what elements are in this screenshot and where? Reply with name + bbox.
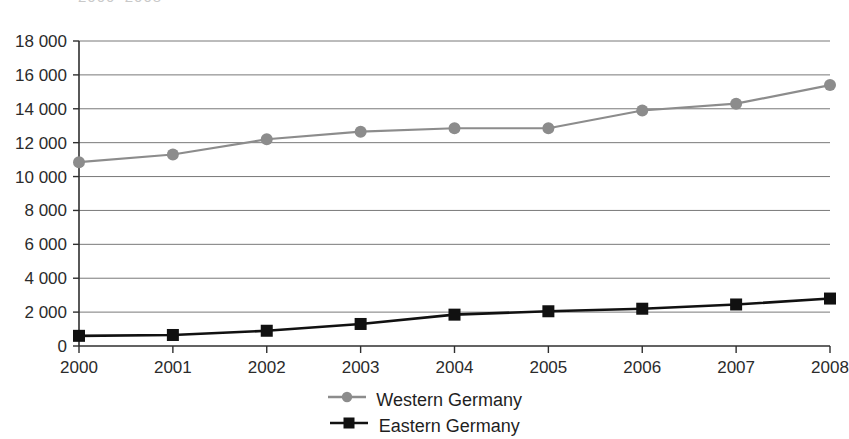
x-axis-labels-group: 200020012002200320042005200620072008: [60, 358, 849, 377]
circle-marker-icon: [449, 122, 461, 134]
x-axis-tick-label: 2004: [436, 358, 474, 377]
y-axis-tick-label: 10 000: [15, 168, 67, 187]
series-eastern-germany: [73, 293, 836, 342]
circle-marker-icon: [542, 122, 554, 134]
y-axis-tick-label: 16 000: [15, 66, 67, 85]
x-tick-marks-group: [79, 346, 830, 353]
circle-marker-icon: [824, 79, 836, 91]
legend-item-label: Western Germany: [376, 387, 522, 413]
x-axis-tick-label: 2000: [60, 358, 98, 377]
x-axis-tick-label: 2003: [342, 358, 380, 377]
y-axis-tick-label: 12 000: [15, 134, 67, 153]
square-marker-icon: [167, 329, 179, 341]
y-axis-tick-label: 8 000: [24, 201, 67, 220]
square-marker-icon: [449, 309, 461, 321]
x-axis-tick-label: 2001: [154, 358, 192, 377]
square-marker-icon: [824, 293, 836, 305]
circle-marker-icon: [636, 104, 648, 116]
circle-marker-icon: [261, 133, 273, 145]
y-axis-tick-label: 2 000: [24, 303, 67, 322]
square-marker-icon: [355, 318, 367, 330]
y-axis-tick-label: 18 000: [15, 32, 67, 51]
square-marker-icon: [261, 325, 273, 337]
circle-marker-icon: [167, 149, 179, 161]
y-axis-labels-group: 18 00016 00014 00012 00010 0008 0006 000…: [15, 32, 67, 356]
line-chart: 18 00016 00014 00012 00010 0008 0006 000…: [0, 0, 849, 386]
y-axis-tick-label: 0: [58, 337, 67, 356]
y-tick-marks-group: [73, 41, 79, 346]
square-marker-icon: [329, 413, 369, 439]
x-axis-tick-label: 2008: [811, 358, 849, 377]
legend-item[interactable]: Eastern Germany: [0, 412, 849, 438]
gridlines-group: [79, 41, 830, 312]
chart-legend: Western Germany Eastern Germany: [0, 386, 849, 438]
series-western-germany: [73, 79, 836, 168]
square-marker-icon: [636, 303, 648, 315]
circle-marker-icon: [730, 98, 742, 110]
circle-marker-icon: [73, 156, 85, 168]
square-marker-icon: [73, 330, 85, 342]
x-axis-tick-label: 2006: [623, 358, 661, 377]
circle-marker-icon: [327, 387, 367, 413]
x-axis-tick-label: 2005: [529, 358, 567, 377]
square-marker-icon: [730, 298, 742, 310]
y-axis-tick-label: 6 000: [24, 235, 67, 254]
y-axis-tick-label: 14 000: [15, 100, 67, 119]
chart-page: 2000–2008 18 00016 00014 00012 00010 000…: [0, 0, 849, 439]
legend-item[interactable]: Western Germany: [0, 386, 849, 412]
square-marker-icon: [542, 305, 554, 317]
x-axis-tick-label: 2002: [248, 358, 286, 377]
x-axis-tick-label: 2007: [717, 358, 755, 377]
legend-item-label: Eastern Germany: [379, 413, 520, 439]
circle-marker-icon: [355, 126, 367, 138]
y-axis-tick-label: 4 000: [24, 269, 67, 288]
